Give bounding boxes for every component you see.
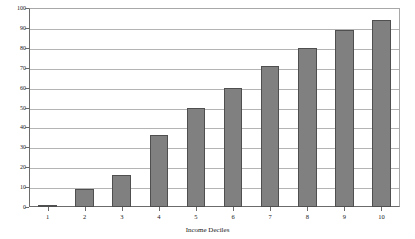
x-tick-label: 5: [181, 213, 211, 221]
x-tick-mark: [122, 207, 123, 211]
y-tick-mark: [25, 8, 29, 9]
y-tick-mark: [25, 88, 29, 89]
x-tick-label: 8: [292, 213, 322, 221]
y-tick-label: 90: [2, 25, 26, 31]
bar: [372, 20, 391, 207]
y-tick-mark: [25, 167, 29, 168]
bar: [75, 189, 94, 207]
y-tick-label: 80: [2, 45, 26, 51]
bar-series: [29, 8, 400, 207]
x-tick-label: 2: [70, 213, 100, 221]
y-axis: 0102030405060708090100: [0, 0, 26, 239]
y-tick-label: 20: [2, 164, 26, 170]
x-tick-mark: [344, 207, 345, 211]
y-tick-label: 60: [2, 85, 26, 91]
y-tick-label: 30: [2, 144, 26, 150]
y-tick-mark: [25, 28, 29, 29]
y-tick-label: 0: [2, 204, 26, 210]
x-tick-label: 9: [329, 213, 359, 221]
y-tick-mark: [25, 147, 29, 148]
bar-chart: 0102030405060708090100 Income Deciles 12…: [0, 0, 415, 239]
x-axis-title: Income Deciles: [0, 226, 415, 235]
bar: [335, 30, 354, 207]
y-tick-mark: [25, 48, 29, 49]
x-tick-label: 4: [144, 213, 174, 221]
x-tick-label: 1: [33, 213, 63, 221]
y-tick-label: 10: [2, 184, 26, 190]
x-tick-mark: [307, 207, 308, 211]
x-tick-mark: [233, 207, 234, 211]
bar: [187, 108, 206, 208]
y-tick-mark: [25, 207, 29, 208]
x-tick-label: 6: [218, 213, 248, 221]
x-tick-mark: [85, 207, 86, 211]
bar: [150, 135, 169, 207]
y-tick-label: 100: [2, 5, 26, 11]
y-tick-label: 50: [2, 105, 26, 111]
bar: [224, 88, 243, 207]
x-tick-mark: [381, 207, 382, 211]
bar: [298, 48, 317, 207]
y-tick-mark: [25, 187, 29, 188]
x-tick-label: 10: [366, 213, 396, 221]
y-tick-mark: [25, 108, 29, 109]
x-tick-mark: [270, 207, 271, 211]
bar: [261, 66, 280, 207]
y-tick-mark: [25, 68, 29, 69]
bar: [112, 175, 131, 207]
x-tick-label: 3: [107, 213, 137, 221]
y-tick-mark: [25, 127, 29, 128]
y-tick-label: 70: [2, 65, 26, 71]
x-tick-mark: [48, 207, 49, 211]
x-tick-mark: [196, 207, 197, 211]
x-tick-label: 7: [255, 213, 285, 221]
y-tick-label: 40: [2, 124, 26, 130]
x-tick-mark: [159, 207, 160, 211]
